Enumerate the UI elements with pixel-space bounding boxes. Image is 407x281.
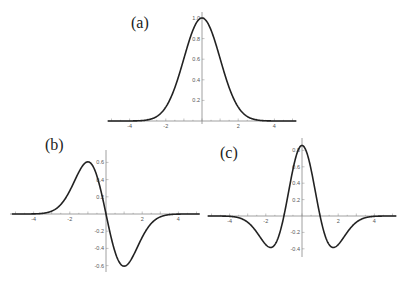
tick-label: -0.6 [95,263,104,269]
figure: -4-2240.20.40.60.81.0-4-224-0.6-0.4-0.20… [0,0,407,281]
tick-label: -0.2 [95,228,104,234]
tick-label: -2 [263,218,268,224]
tick-label: 2 [337,218,340,224]
tick-label: 0.6 [192,56,200,62]
tick-label: -2 [163,123,168,129]
tick-label: 4 [273,123,276,129]
tick-label: 0.4 [292,180,300,186]
tick-label: -4 [31,216,36,222]
tick-label: 0.6 [96,159,104,165]
tick-label: -0.4 [291,246,300,252]
panel-label-a: (a) [131,14,149,32]
tick-label: -4 [227,218,232,224]
tick-label: 4 [373,218,376,224]
panel-label-c: (c) [220,144,238,162]
tick-label: 0.8 [192,36,200,42]
tick-label: 0.2 [192,97,200,103]
tick-label: 4 [177,216,180,222]
tick-label: 2 [141,216,144,222]
tick-label: 0.2 [292,197,300,203]
panel-label-b: (b) [45,136,64,154]
tick-label: -0.4 [95,245,104,251]
tick-label: -4 [127,123,132,129]
tick-label: 2 [237,123,240,129]
tick-label: 0.4 [192,77,200,83]
tick-label: -0.2 [291,229,300,235]
tick-label: -2 [67,216,72,222]
